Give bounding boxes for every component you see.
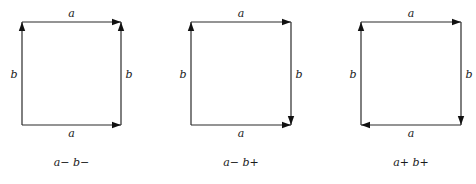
arrowhead-up-icon: [19, 22, 25, 31]
arrowhead-right-icon: [112, 19, 121, 25]
square-diagram-a-minus-b-minus: aabba− b−: [10, 7, 132, 169]
arrowhead-up-icon: [118, 22, 124, 31]
bottom-edge: a: [361, 122, 461, 140]
diagram-caption: a+ b+: [393, 156, 429, 169]
top-edge-label: a: [68, 7, 75, 20]
left-edge-label: b: [10, 68, 17, 81]
arrowhead-up-icon: [358, 22, 364, 31]
right-edge-label: b: [125, 68, 132, 81]
arrowhead-right-icon: [282, 19, 291, 25]
left-edge: b: [10, 22, 25, 125]
top-edge: a: [361, 7, 461, 25]
top-edge: a: [22, 7, 121, 25]
top-edge: a: [191, 7, 291, 25]
square-diagram-a-plus-b-plus: aabba+ b+: [349, 7, 472, 169]
bottom-edge-label: a: [408, 127, 415, 140]
right-edge: b: [118, 22, 133, 125]
left-edge: b: [179, 22, 194, 125]
right-edge: b: [288, 22, 303, 125]
diagram-caption: a− b−: [54, 156, 90, 169]
arrowhead-down-icon: [458, 116, 464, 125]
square-diagram-a-minus-b-plus: aabba− b+: [179, 7, 302, 169]
square-identification-diagrams: aabba− b−aabba− b+aabba+ b+: [0, 0, 476, 184]
right-edge-label: b: [295, 68, 302, 81]
arrowhead-up-icon: [188, 22, 194, 31]
bottom-edge: a: [191, 122, 291, 140]
bottom-edge: a: [22, 122, 121, 140]
top-edge-label: a: [408, 7, 415, 20]
right-edge-label: b: [465, 68, 472, 81]
arrowhead-right-icon: [452, 19, 461, 25]
left-edge-label: b: [179, 68, 186, 81]
arrowhead-left-icon: [361, 122, 370, 128]
bottom-edge-label: a: [68, 127, 75, 140]
left-edge-label: b: [349, 68, 356, 81]
right-edge: b: [458, 22, 473, 125]
arrowhead-down-icon: [288, 116, 294, 125]
diagram-caption: a− b+: [223, 156, 259, 169]
top-edge-label: a: [238, 7, 245, 20]
left-edge: b: [349, 22, 364, 125]
bottom-edge-label: a: [238, 127, 245, 140]
arrowhead-right-icon: [112, 122, 121, 128]
arrowhead-right-icon: [282, 122, 291, 128]
